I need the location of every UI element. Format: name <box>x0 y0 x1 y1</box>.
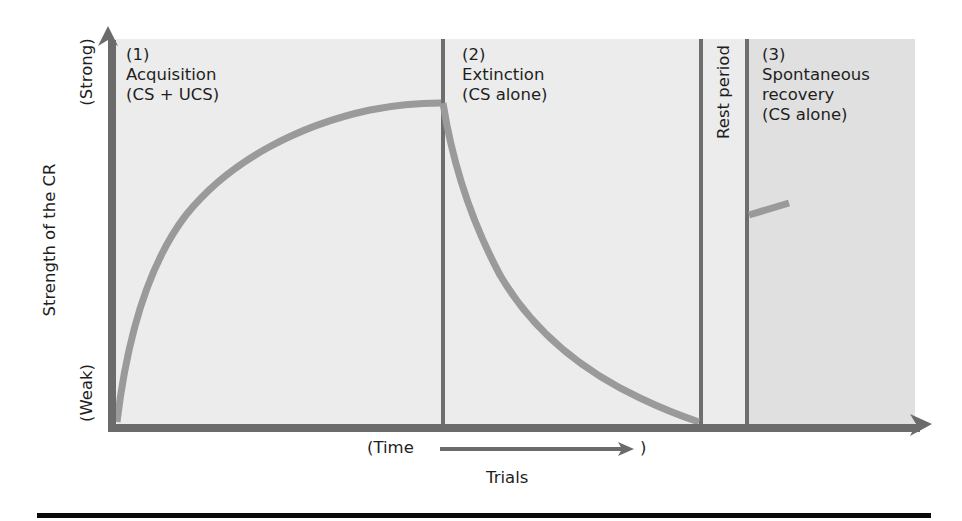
phase1-condition: (CS + UCS) <box>126 85 219 105</box>
phase3-name-line2: recovery <box>762 85 870 105</box>
phase2-label: (2) Extinction (CS alone) <box>462 45 548 105</box>
phase3-number: (3) <box>762 45 870 65</box>
time-label-open: (Time <box>367 438 414 458</box>
y-axis-strong-label: (Strong) <box>77 38 97 105</box>
phase1-name: Acquisition <box>126 65 219 85</box>
x-axis-title: Trials <box>486 468 528 488</box>
phase1-number: (1) <box>126 45 219 65</box>
phase3-name-line1: Spontaneous <box>762 65 870 85</box>
phase3-label: (3) Spontaneous recovery (CS alone) <box>762 45 870 125</box>
phase2-number: (2) <box>462 45 548 65</box>
y-axis-weak-label: (Weak) <box>77 364 97 422</box>
phase2-name: Extinction <box>462 65 548 85</box>
time-label-close: ) <box>640 438 646 458</box>
y-axis-title: Strength of the CR <box>40 163 60 316</box>
phase3-condition: (CS alone) <box>762 105 870 125</box>
bottom-rule <box>37 513 931 518</box>
phase2-condition: (CS alone) <box>462 85 548 105</box>
phase1-label: (1) Acquisition (CS + UCS) <box>126 45 219 105</box>
rest-period-label: Rest period <box>714 45 734 139</box>
classical-conditioning-figure: (1) Acquisition (CS + UCS) (2) Extinctio… <box>0 0 962 521</box>
